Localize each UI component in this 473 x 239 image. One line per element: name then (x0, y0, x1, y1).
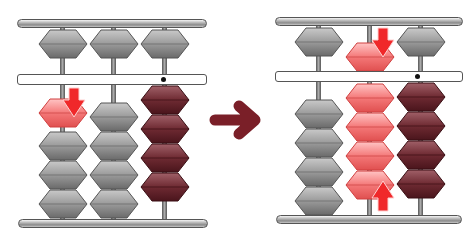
earth-bead (294, 99, 344, 129)
earth-bead-maroon (396, 169, 446, 199)
unit-dot (415, 74, 420, 79)
earth-bead-highlighted (345, 112, 395, 142)
earth-bead-maroon (396, 111, 446, 141)
abacus-after (0, 0, 473, 239)
earth-bead (294, 157, 344, 187)
earth-bead-maroon (396, 140, 446, 170)
bottom-frame-bar (276, 215, 462, 224)
earth-bead-maroon (396, 82, 446, 112)
arrow-down-icon (371, 27, 395, 63)
arrow-up-icon (371, 180, 395, 216)
reckoning-bar (275, 71, 463, 82)
earth-bead-highlighted (345, 141, 395, 171)
earth-bead (294, 186, 344, 216)
heaven-bead (294, 27, 344, 57)
earth-bead (294, 128, 344, 158)
top-frame-bar (275, 17, 463, 26)
earth-bead-highlighted (345, 83, 395, 113)
heaven-bead (396, 27, 446, 57)
